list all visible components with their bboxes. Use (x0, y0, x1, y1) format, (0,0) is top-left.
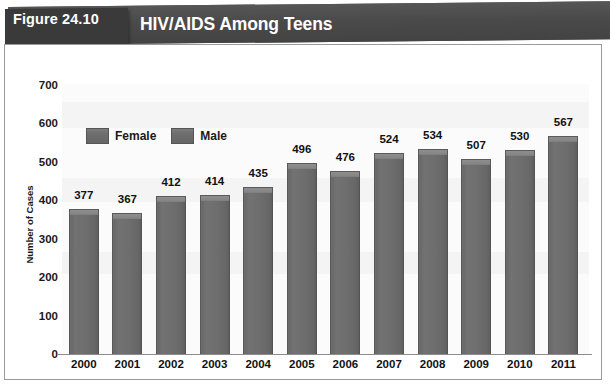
x-axis-tick-2006: 2006 (333, 358, 359, 370)
x-axis-tick-2008: 2008 (420, 358, 446, 370)
bar-front-face (243, 193, 273, 354)
x-axis-tick-2004: 2004 (245, 358, 271, 370)
bar-2005[interactable]: 496 (287, 143, 317, 354)
bar-2009[interactable]: 507 (461, 139, 491, 354)
bar-value-label: 524 (379, 133, 398, 145)
bar-value-label: 530 (510, 130, 529, 142)
bar-front-face (374, 159, 404, 354)
x-axis-tick-2009: 2009 (463, 358, 489, 370)
bar-value-label: 414 (205, 175, 224, 187)
x-axis-tick-2007: 2007 (376, 358, 402, 370)
bar-front-face (200, 201, 230, 354)
x-axis-tick-2002: 2002 (158, 358, 184, 370)
bar-front-face (69, 215, 99, 354)
bar-front-face (548, 142, 578, 354)
bar-2003[interactable]: 414 (200, 175, 230, 354)
bar-value-label: 435 (249, 167, 268, 179)
figure-root: Figure 24.10 HIV/AIDS Among Teens 010020… (0, 0, 610, 388)
bar-2006[interactable]: 476 (330, 151, 360, 354)
bars-layer: 3772000367200141220024142003435200449620… (0, 0, 610, 388)
bar-front-face (112, 219, 142, 354)
bar-front-face (418, 155, 448, 354)
bar-2008[interactable]: 534 (418, 129, 448, 354)
bar-value-label: 534 (423, 129, 442, 141)
bar-2000[interactable]: 377 (69, 189, 99, 354)
bar-value-label: 496 (292, 143, 311, 155)
bar-2011[interactable]: 567 (548, 116, 578, 354)
x-axis-tick-2005: 2005 (289, 358, 315, 370)
bar-value-label: 367 (118, 193, 137, 205)
x-axis-tick-2010: 2010 (507, 358, 533, 370)
bar-2001[interactable]: 367 (112, 193, 142, 354)
bar-2007[interactable]: 524 (374, 133, 404, 354)
bar-front-face (505, 156, 535, 354)
x-axis-tick-2011: 2011 (551, 358, 576, 370)
bar-value-label: 567 (554, 116, 573, 128)
bar-value-label: 476 (336, 151, 355, 163)
bar-2004[interactable]: 435 (243, 167, 273, 354)
bar-front-face (287, 169, 317, 354)
bar-front-face (461, 165, 491, 354)
bar-value-label: 507 (467, 139, 486, 151)
bar-2002[interactable]: 412 (156, 176, 186, 354)
bar-value-label: 377 (74, 189, 93, 201)
bar-front-face (330, 177, 360, 354)
x-axis-tick-2000: 2000 (71, 358, 97, 370)
x-axis-tick-2001: 2001 (115, 358, 141, 370)
bar-2010[interactable]: 530 (505, 130, 535, 354)
bar-value-label: 412 (161, 176, 180, 188)
x-axis-tick-2003: 2003 (202, 358, 228, 370)
bar-front-face (156, 202, 186, 354)
